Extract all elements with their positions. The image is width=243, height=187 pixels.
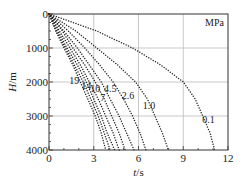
y-tick-label: 1000 [26, 42, 49, 54]
curve-label: 4.5 [104, 83, 117, 94]
y-tick-label: 0 [43, 8, 49, 20]
y-tick-label: 2000 [26, 76, 49, 88]
x-tick-labels: 036912 [46, 152, 233, 164]
chart: 036912 01000200030004000 1914104.572.61.… [0, 0, 243, 187]
y-tick-label: 4000 [26, 144, 49, 156]
x-tick-label: 3 [91, 152, 97, 164]
curve-label: 10 [90, 83, 100, 94]
curve-label: 2.6 [122, 90, 135, 101]
curve-label: 19 [69, 75, 79, 86]
y-tick-labels: 01000200030004000 [26, 8, 49, 156]
curve-label: 1.0 [143, 100, 156, 111]
y-tick-label: 3000 [26, 110, 49, 122]
y-axis-title: H/m [6, 72, 18, 93]
x-tick-label: 6 [136, 152, 142, 164]
unit-annotation: MPa [205, 17, 224, 28]
x-tick-label: 12 [223, 152, 234, 164]
x-tick-label: 9 [181, 152, 187, 164]
x-axis-title: t/s [133, 166, 143, 178]
curve-label: 0.1 [202, 114, 215, 125]
curve-label: 7 [100, 92, 105, 103]
